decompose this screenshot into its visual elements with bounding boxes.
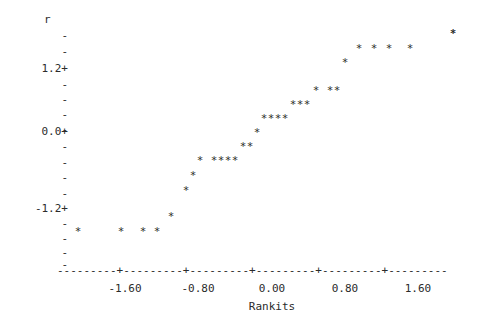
data-point: * xyxy=(282,113,289,124)
data-point: * xyxy=(450,28,457,39)
data-point: * xyxy=(232,155,239,166)
data-point: * xyxy=(211,155,218,166)
data-point: * xyxy=(190,170,197,181)
data-point: * xyxy=(140,226,147,237)
data-point: * xyxy=(225,155,232,166)
data-point: * xyxy=(183,185,190,196)
data-point: * xyxy=(356,43,363,54)
x-axis-tick-label: 0.80 xyxy=(332,283,359,294)
rankits-probability-plot: r --1.2+----0.0+-----1.2+---- **********… xyxy=(0,0,486,329)
x-axis-tick-label: -1.60 xyxy=(108,283,141,294)
data-point: * xyxy=(297,99,304,110)
plot-area: ******************************** xyxy=(0,0,486,265)
data-point: * xyxy=(197,155,204,166)
data-point: * xyxy=(290,99,297,110)
data-point: * xyxy=(342,57,349,68)
data-point: * xyxy=(327,85,334,96)
data-point: * xyxy=(386,43,393,54)
data-point: * xyxy=(334,85,341,96)
x-axis-line: ---------+---------+---------+---------+… xyxy=(57,265,448,276)
data-point: * xyxy=(371,43,378,54)
x-axis-tick-label: -0.80 xyxy=(181,283,214,294)
data-point: * xyxy=(313,85,320,96)
data-point: * xyxy=(154,226,161,237)
data-point: * xyxy=(275,113,282,124)
data-point: * xyxy=(240,141,247,152)
x-axis-tick-label: 0.00 xyxy=(259,283,286,294)
data-point: * xyxy=(247,141,254,152)
data-point: * xyxy=(218,155,225,166)
data-point: * xyxy=(254,127,261,138)
x-axis-tick-labels: -1.60-0.800.000.801.60 xyxy=(0,283,486,297)
data-point: * xyxy=(268,113,275,124)
data-point: * xyxy=(304,99,311,110)
x-axis-tick-label: 1.60 xyxy=(405,283,432,294)
data-point: * xyxy=(168,211,175,222)
data-point: * xyxy=(75,226,82,237)
data-point: * xyxy=(118,226,125,237)
data-point: * xyxy=(407,43,414,54)
data-point: * xyxy=(261,113,268,124)
x-axis-title: Rankits xyxy=(249,301,295,312)
